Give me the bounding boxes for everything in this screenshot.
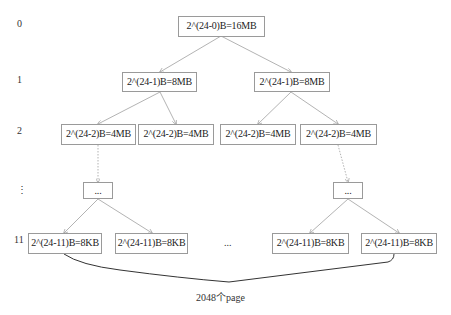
- level-label-1: 1: [17, 74, 22, 85]
- level-label-ellipsis: ⋮: [17, 184, 27, 195]
- node-level1-left: 2^(24-1)B=8MB: [122, 72, 197, 92]
- leaf-page-2047: 2^(24-11)B=8KB: [272, 233, 349, 254]
- leaf-gap-ellipsis: ...: [224, 237, 232, 248]
- leaf-page-1: 2^(24-11)B=8KB: [28, 233, 102, 254]
- node-level2-3: 2^(24-2)B=4MB: [220, 124, 296, 145]
- node-level2-4: 2^(24-2)B=4MB: [300, 124, 377, 145]
- level-label-11: 11: [14, 234, 24, 245]
- node-level2-1: 2^(24-2)B=4MB: [61, 124, 136, 145]
- level-label-2: 2: [17, 125, 22, 136]
- edges: [0, 0, 451, 315]
- node-ellipsis-left: ...: [83, 182, 113, 199]
- brace-curve: [64, 254, 394, 282]
- leaf-page-2048: 2^(24-11)B=8KB: [361, 233, 437, 254]
- buddy-tree-diagram: 0 1 2 ⋮ 11 2^(24-0)B=16MB 2^(24-1)B=8MB …: [0, 0, 451, 315]
- node-level0: 2^(24-0)B=16MB: [178, 16, 265, 37]
- node-ellipsis-right: ...: [333, 182, 363, 199]
- node-level2-2: 2^(24-2)B=4MB: [138, 124, 214, 145]
- page-count-label: 2048个page: [196, 289, 245, 304]
- level-label-0: 0: [17, 18, 22, 29]
- leaf-page-2: 2^(24-11)B=8KB: [115, 233, 188, 254]
- node-level1-right: 2^(24-1)B=8MB: [254, 72, 330, 92]
